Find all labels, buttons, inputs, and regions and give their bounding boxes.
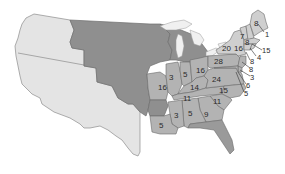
label-delaware: 3 <box>250 73 254 82</box>
label-south-carolina: 11 <box>213 97 222 106</box>
arkansas-territory <box>148 100 168 116</box>
state-pennsylvania <box>208 54 240 68</box>
label-maine-outer: 1 <box>265 30 269 39</box>
label-illinois: 3 <box>169 73 174 82</box>
label-dc-area: 5 <box>244 89 248 98</box>
us-map: 16 3 5 16 14 28 24 15 11 11 9 5 3 5 20 1… <box>0 0 285 174</box>
label-louisiana: 5 <box>159 121 164 130</box>
leader-line <box>250 48 256 56</box>
label-new-york: 16 <box>234 44 243 53</box>
label-mississippi: 3 <box>174 111 179 120</box>
label-indiana: 5 <box>183 70 188 79</box>
label-pennsylvania: 28 <box>214 57 223 66</box>
label-virginia: 24 <box>212 75 221 84</box>
label-rhode-island: 4 <box>257 53 261 62</box>
label-new-hampshire: 8 <box>245 38 250 47</box>
lake-superior <box>160 20 192 30</box>
label-ohio: 16 <box>196 66 205 75</box>
label-missouri: 16 <box>158 83 167 92</box>
florida-territory <box>188 120 234 154</box>
label-north-carolina: 15 <box>219 86 228 95</box>
label-massachusetts: 15 <box>262 46 270 55</box>
label-georgia: 9 <box>204 110 209 119</box>
label-new-york-west: 20 <box>222 44 231 53</box>
label-kentucky: 14 <box>190 83 199 92</box>
label-maine: 8 <box>254 19 259 28</box>
label-alabama: 5 <box>188 109 193 118</box>
label-tennessee: 11 <box>183 94 192 103</box>
